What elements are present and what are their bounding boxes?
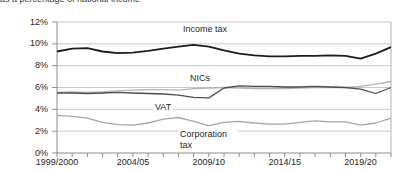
y-axis-label-2: 2% (0, 126, 48, 137)
series-label-corporation-tax: Corporation tax (178, 129, 238, 151)
y-axis-label-6: 6% (0, 82, 48, 93)
line-chart: 12%10%8%6%4%2%0% 1999/20002004/052009/10… (0, 0, 394, 171)
series-label-nics: NICs (188, 73, 212, 84)
y-axis-label-10: 10% (0, 38, 48, 49)
y-axis-label-8: 8% (0, 60, 48, 71)
y-axis-label-4: 4% (0, 104, 48, 115)
x-axis-label-2004-05: 2004/05 (101, 157, 165, 168)
series-line-income-tax (57, 45, 391, 59)
series-line-corporation-tax (57, 115, 391, 125)
x-axis-label-1999-2000: 1999/2000 (25, 157, 89, 168)
x-axis-label-2009-10: 2009/10 (177, 157, 241, 168)
y-axis-label-12: 12% (0, 17, 48, 28)
x-axis-label-2014-15: 2014/15 (253, 157, 317, 168)
x-axis-label-2019-20: 2019/20 (329, 157, 393, 168)
series-label-vat: VAT (153, 102, 173, 113)
chart-figure: as a percentage of national income 12%10… (0, 0, 394, 171)
series-label-income-tax: Income tax (181, 24, 229, 35)
